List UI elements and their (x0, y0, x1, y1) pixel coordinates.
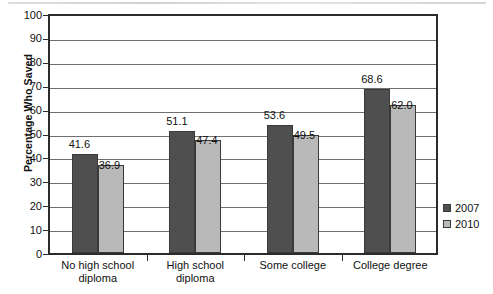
x-axis-label-2: High school diploma (147, 259, 245, 284)
legend-label-2007: 2007 (455, 203, 479, 214)
x-axis-label-4: College degree (342, 259, 440, 272)
bar-2007-4 (364, 89, 390, 253)
bar-label-2007-4: 68.6 (361, 74, 382, 85)
x-axis-label-3: Some college (244, 259, 342, 272)
bar-2007-1 (72, 154, 98, 253)
y-tick-label-60: 60 (16, 105, 42, 116)
scan-artifact (8, 2, 486, 4)
legend: 2007 2010 (443, 200, 479, 232)
y-tick-label-20: 20 (16, 201, 42, 212)
bar-2010-3 (293, 135, 319, 253)
bar-label-2007-1: 41.6 (69, 139, 90, 150)
bar-label-2007-3: 53.6 (264, 110, 285, 121)
y-tick-label-0: 0 (16, 249, 42, 260)
y-tick-label-90: 90 (16, 33, 42, 44)
y-tick-label-70: 70 (16, 81, 42, 92)
legend-item-2007: 2007 (443, 200, 479, 216)
bar-2007-3 (267, 125, 293, 253)
bar-label-2010-2: 47.4 (196, 135, 217, 146)
bar-2010-2 (195, 140, 221, 253)
bar-2007-2 (169, 131, 195, 253)
y-tick-label-30: 30 (16, 177, 42, 188)
y-tick-label-80: 80 (16, 57, 42, 68)
legend-swatch-2010 (443, 220, 451, 228)
legend-item-2010: 2010 (443, 216, 479, 232)
y-tick-label-100: 100 (16, 10, 42, 21)
plot-area (48, 14, 438, 255)
legend-swatch-2007 (443, 204, 451, 212)
bar-2010-4 (390, 105, 416, 253)
gridline-80 (50, 64, 436, 65)
bar-label-2007-2: 51.1 (166, 116, 187, 127)
bar-chart: Percentage Who Saved 1009080706050403020… (0, 0, 493, 294)
bar-label-2010-3: 49.5 (294, 130, 315, 141)
gridline-90 (50, 40, 436, 41)
bar-label-2010-4: 62.0 (391, 100, 412, 111)
bar-label-2010-1: 36.9 (99, 160, 120, 171)
legend-label-2010: 2010 (455, 219, 479, 230)
x-axis-label-1: No high school diploma (49, 259, 147, 284)
y-tick-label-50: 50 (16, 129, 42, 140)
y-tick-label-40: 40 (16, 153, 42, 164)
y-tick-label-10: 10 (16, 225, 42, 236)
bar-2010-1 (98, 165, 124, 253)
